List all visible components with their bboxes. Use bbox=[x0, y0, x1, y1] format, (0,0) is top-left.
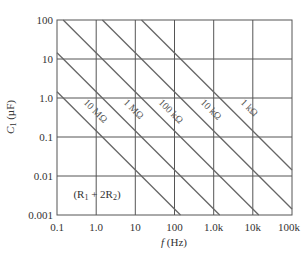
curve-1kohm bbox=[142, 20, 293, 170]
capacitor-frequency-chart: 10 MΩ 1 MΩ 100 kΩ 10 kΩ 1 kΩ 100 10 1.0 … bbox=[0, 0, 307, 262]
y-axis-title-unit: (µF) bbox=[4, 100, 17, 123]
curve-label-1kohm: 1 kΩ bbox=[239, 97, 261, 119]
y-axis-title: C1 (µF) bbox=[4, 100, 18, 134]
y-tick-0.001: 0.001 bbox=[28, 209, 53, 221]
x-tick-10k: 10k bbox=[245, 221, 262, 233]
x-tick-10: 10 bbox=[130, 221, 142, 233]
curve-label-10kohm: 10 kΩ bbox=[199, 97, 224, 122]
x-tick-0.1: 0.1 bbox=[50, 221, 64, 233]
annot-close: ) bbox=[117, 188, 121, 201]
x-axis-title-unit: (Hz) bbox=[164, 236, 187, 249]
resistance-annotation: (R1 + 2R2) bbox=[73, 188, 121, 202]
y-tick-100: 100 bbox=[37, 14, 54, 26]
y-axis-ticks: 100 10 1.0 0.1 0.01 0.001 bbox=[28, 14, 53, 221]
annot-open: (R bbox=[73, 188, 85, 201]
annot-mid: + 2R bbox=[88, 188, 113, 200]
curve-10kohm bbox=[102, 20, 292, 209]
x-tick-1k: 1.0k bbox=[204, 221, 224, 233]
y-tick-1: 1.0 bbox=[39, 92, 53, 104]
x-tick-100k: 100k bbox=[278, 221, 301, 233]
y-tick-0.01: 0.01 bbox=[34, 170, 53, 182]
y-tick-0.1: 0.1 bbox=[39, 131, 53, 143]
curve-100kohm bbox=[63, 20, 259, 215]
x-axis-title: f (Hz) bbox=[161, 236, 187, 249]
x-tick-1: 1.0 bbox=[89, 221, 103, 233]
y-tick-10: 10 bbox=[42, 53, 54, 65]
x-tick-100: 100 bbox=[166, 221, 183, 233]
curve-label-1Mohm: 1 MΩ bbox=[122, 97, 147, 122]
x-axis-ticks: 0.1 1.0 10 100 1.0k 10k 100k bbox=[50, 221, 300, 233]
curve-label-100kohm: 100 kΩ bbox=[157, 97, 186, 126]
